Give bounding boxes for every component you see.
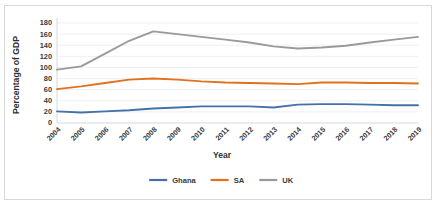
- y-tick-label: 60: [44, 85, 52, 94]
- x-tick-label: 2017: [358, 125, 376, 143]
- x-tick-label: 2007: [117, 125, 135, 143]
- y-tick-label: 20: [44, 107, 52, 116]
- x-tick-label: 2019: [406, 125, 424, 143]
- x-tick-label: 2012: [237, 125, 255, 143]
- series-line-ghana: [57, 104, 418, 112]
- x-tick-label: 2013: [261, 125, 279, 143]
- x-tick-label: 2018: [382, 125, 400, 143]
- y-tick-label: 140: [40, 41, 52, 50]
- y-tick-label: 160: [40, 30, 52, 39]
- legend-label-ghana[interactable]: Ghana: [172, 176, 196, 185]
- series-line-uk: [57, 31, 418, 69]
- x-axis-tick-labels: 2004200520062007200820092010201120122013…: [45, 125, 424, 143]
- chart-figure: 020406080100120140160180 200420052006200…: [0, 0, 436, 205]
- y-tick-label: 0: [48, 118, 52, 127]
- legend-label-sa[interactable]: SA: [234, 176, 245, 185]
- x-tick-label: 2005: [69, 125, 87, 143]
- legend-label-uk[interactable]: UK: [282, 176, 293, 185]
- y-axis-tick-labels: 020406080100120140160180: [40, 18, 52, 127]
- series-line-sa: [57, 79, 418, 90]
- y-tick-label: 120: [40, 52, 52, 61]
- y-axis-title: Percentage of GDP: [11, 36, 21, 114]
- x-tick-label: 2010: [189, 125, 207, 143]
- x-tick-label: 2008: [141, 125, 159, 143]
- y-tick-label: 80: [44, 74, 52, 83]
- x-tick-label: 2015: [309, 125, 327, 143]
- y-tick-label: 180: [40, 18, 52, 27]
- line-chart-plot: 020406080100120140160180 200420052006200…: [0, 0, 436, 205]
- x-tick-label: 2004: [45, 125, 63, 143]
- x-tick-label: 2014: [285, 125, 303, 143]
- y-tick-label: 100: [40, 63, 52, 72]
- x-tick-label: 2016: [334, 125, 352, 143]
- x-tick-label: 2011: [213, 125, 230, 142]
- x-tick-label: 2006: [93, 125, 111, 143]
- data-series-lines: [57, 31, 418, 112]
- x-axis-title: Year: [213, 150, 232, 160]
- chart-legend: GhanaSAUK: [149, 176, 294, 185]
- x-tick-label: 2009: [165, 125, 183, 143]
- y-tick-label: 40: [44, 96, 52, 105]
